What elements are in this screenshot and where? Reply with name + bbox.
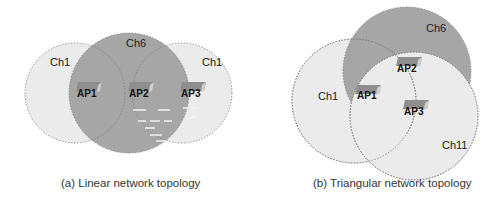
caption-linear: (a) Linear network topology xyxy=(61,177,201,189)
svg-text:AP2: AP2 xyxy=(129,88,149,99)
svg-text:AP3: AP3 xyxy=(404,106,424,117)
triangular-topology: Ch6 Ch1 Ch11 AP2 AP1 AP3 (b) Triangular … xyxy=(292,7,478,189)
channel-label: Ch1 xyxy=(318,90,338,102)
linear-topology: Ch1 Ch6 Ch1 AP1 AP2 AP3 (a) Linear netwo… xyxy=(25,33,232,189)
svg-text:AP3: AP3 xyxy=(181,88,201,99)
svg-text:AP1: AP1 xyxy=(357,90,377,101)
svg-text:AP2: AP2 xyxy=(397,63,417,74)
svg-text:AP1: AP1 xyxy=(77,88,97,99)
topology-diagram: Ch1 Ch6 Ch1 AP1 AP2 AP3 (a) Linear netwo… xyxy=(0,0,500,211)
channel-label: Ch1 xyxy=(50,56,70,68)
channel-label: Ch6 xyxy=(126,37,146,49)
channel-label: Ch6 xyxy=(426,22,446,34)
channel-label: Ch11 xyxy=(442,139,467,151)
channel-label: Ch1 xyxy=(202,56,222,68)
caption-triangular: (b) Triangular network topology xyxy=(313,177,472,189)
